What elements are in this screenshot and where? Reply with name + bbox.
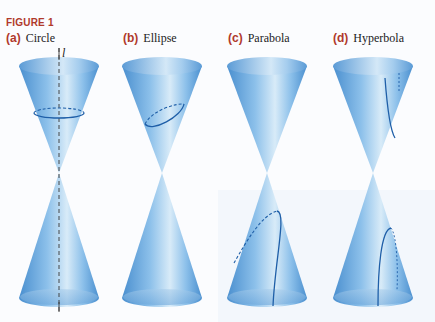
lower-base bbox=[228, 289, 306, 305]
lower-nappe bbox=[227, 173, 307, 307]
lower-base bbox=[123, 289, 201, 305]
conic-sections-figure bbox=[0, 0, 435, 322]
upper-nappe bbox=[227, 66, 307, 173]
lower-nappe bbox=[333, 173, 413, 307]
upper-nappe bbox=[122, 66, 202, 173]
upper-nappe bbox=[333, 66, 413, 173]
upper-rim bbox=[122, 57, 202, 75]
lower-base bbox=[334, 289, 412, 305]
upper-rim bbox=[227, 57, 307, 75]
upper-rim bbox=[333, 57, 413, 75]
lower-nappe bbox=[122, 173, 202, 307]
